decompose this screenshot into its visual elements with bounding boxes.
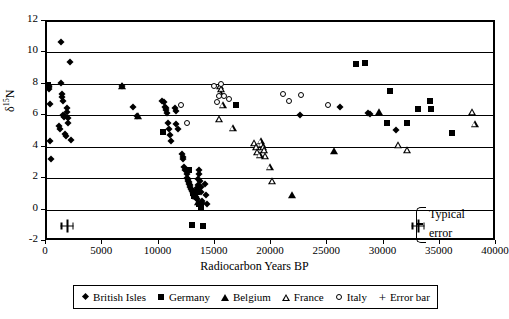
data-point-france bbox=[266, 163, 274, 170]
data-point-british-isles bbox=[203, 201, 210, 208]
data-point-belgium bbox=[134, 112, 142, 119]
data-point-british-isles bbox=[67, 136, 74, 143]
legend-marker-open-circle-icon bbox=[335, 293, 344, 302]
data-point-germany bbox=[160, 129, 166, 135]
curly-brace-icon bbox=[416, 207, 426, 243]
legend-item-germany[interactable]: Germany bbox=[157, 291, 210, 303]
y-axis-title-element: N bbox=[3, 90, 17, 99]
data-point-germany bbox=[200, 223, 206, 229]
data-point-germany bbox=[189, 222, 195, 228]
data-point-germany bbox=[198, 204, 204, 210]
gridline-y-8 bbox=[47, 84, 493, 85]
x-tick-mark-5000 bbox=[101, 240, 102, 244]
gridline-y-6 bbox=[47, 115, 493, 116]
data-point-france bbox=[403, 146, 411, 153]
data-point-italy bbox=[280, 91, 286, 97]
x-tick-mark-20000 bbox=[270, 240, 271, 244]
y-tick-label-12: 12 bbox=[8, 12, 38, 24]
data-point-germany bbox=[45, 82, 51, 88]
data-point-germany bbox=[449, 130, 455, 136]
y-axis-title-superscript: 15 bbox=[2, 98, 11, 106]
x-axis-title: Radiocarbon Years BP bbox=[0, 259, 509, 274]
y-tick-mark-4 bbox=[41, 146, 46, 147]
legend-marker-filled-triangle-icon bbox=[221, 293, 230, 302]
data-point-british-isles bbox=[392, 127, 399, 134]
data-point-italy bbox=[298, 92, 304, 98]
data-point-british-isles bbox=[47, 155, 54, 162]
data-point-france bbox=[471, 120, 479, 127]
data-point-british-isles bbox=[58, 80, 65, 87]
legend-label: Error bar bbox=[390, 291, 430, 303]
y-tick-mark-8 bbox=[41, 83, 46, 84]
x-tick-mark-30000 bbox=[383, 240, 384, 244]
y-tick-mark-0 bbox=[41, 209, 46, 210]
data-point-belgium bbox=[330, 147, 338, 154]
data-point-error-bar bbox=[61, 219, 74, 232]
legend-item-error-bar[interactable]: +Error bar bbox=[378, 291, 430, 303]
x-tick-label-30000: 30000 bbox=[353, 244, 413, 256]
typical-error-line1: Typical bbox=[429, 205, 465, 224]
legend-label: Belgium bbox=[233, 291, 271, 303]
data-point-italy bbox=[178, 102, 184, 108]
data-point-italy bbox=[325, 102, 331, 108]
data-point-germany bbox=[384, 120, 390, 126]
y-tick-label-0: 0 bbox=[8, 201, 38, 213]
data-point-germany bbox=[415, 106, 421, 112]
typical-error-label: Typical error bbox=[429, 205, 465, 243]
legend-marker-plus-icon: + bbox=[378, 293, 387, 302]
typical-error-line2: error bbox=[429, 224, 465, 243]
legend-label: Italy bbox=[347, 291, 367, 303]
data-point-belgium bbox=[375, 108, 383, 115]
x-tick-mark-0 bbox=[45, 240, 46, 244]
legend-item-belgium[interactable]: Belgium bbox=[221, 291, 271, 303]
data-point-british-isles bbox=[202, 191, 209, 198]
y-tick-label-6: 6 bbox=[8, 106, 38, 118]
data-point-italy bbox=[214, 99, 220, 105]
data-point-germany bbox=[387, 88, 393, 94]
y-tick-mark-2 bbox=[41, 177, 46, 178]
data-point-british-isles bbox=[57, 39, 64, 46]
legend-marker-filled-square-icon bbox=[157, 293, 166, 302]
y-tick-mark-10 bbox=[41, 51, 46, 52]
x-tick-label-15000: 15000 bbox=[184, 244, 244, 256]
data-point-germany bbox=[427, 98, 433, 104]
data-point-italy bbox=[211, 83, 217, 89]
x-tick-label-35000: 35000 bbox=[409, 244, 469, 256]
y-tick-label-4: 4 bbox=[8, 138, 38, 150]
y-tick-label-2: 2 bbox=[8, 169, 38, 181]
legend-marker-open-triangle-icon bbox=[282, 293, 291, 302]
data-point-france bbox=[215, 115, 223, 122]
data-point-germany bbox=[353, 61, 359, 67]
data-point-germany bbox=[186, 167, 192, 173]
typical-error-annotation: Typical error bbox=[416, 205, 509, 245]
data-point-france bbox=[268, 177, 276, 184]
x-tick-label-0: 0 bbox=[15, 244, 75, 256]
chart-legend: British IslesGermanyBelgiumFranceItaly+E… bbox=[73, 285, 438, 309]
data-point-italy bbox=[226, 96, 232, 102]
x-tick-label-5000: 5000 bbox=[71, 244, 131, 256]
x-tick-mark-25000 bbox=[326, 240, 327, 244]
legend-item-france[interactable]: France bbox=[282, 291, 324, 303]
data-point-british-isles bbox=[297, 111, 304, 118]
legend-label: France bbox=[294, 291, 324, 303]
data-point-italy bbox=[184, 120, 190, 126]
legend-item-italy[interactable]: Italy bbox=[335, 291, 367, 303]
x-tick-label-20000: 20000 bbox=[240, 244, 300, 256]
legend-item-british-isles[interactable]: British Isles bbox=[81, 291, 146, 303]
y-tick-label-8: 8 bbox=[8, 75, 38, 87]
data-point-british-isles bbox=[65, 120, 72, 127]
legend-label: British Isles bbox=[93, 291, 146, 303]
data-point-france bbox=[256, 151, 264, 158]
y-tick-label--2: -2 bbox=[8, 232, 38, 244]
data-point-belgium bbox=[194, 198, 202, 205]
x-tick-mark-15000 bbox=[214, 240, 215, 244]
data-point-british-isles bbox=[167, 138, 174, 145]
y-tick-mark-12 bbox=[41, 20, 46, 21]
data-point-germany bbox=[428, 106, 434, 112]
data-point-british-isles bbox=[129, 103, 136, 110]
x-tick-label-10000: 10000 bbox=[128, 244, 188, 256]
data-point-british-isles bbox=[47, 100, 54, 107]
data-point-germany bbox=[404, 120, 410, 126]
scatter-chart: δ15N -2024681012050001000015000200002500… bbox=[0, 0, 509, 319]
data-point-germany bbox=[362, 60, 368, 66]
